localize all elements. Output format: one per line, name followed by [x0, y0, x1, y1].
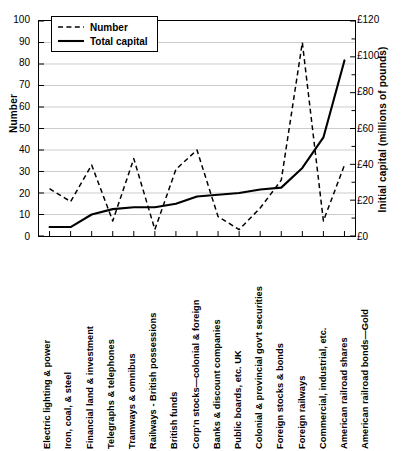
x-axis-label-6: British funds	[170, 392, 179, 449]
y-axis-left-tick-100: 100	[4, 15, 30, 25]
x-axis-label-8: Banks & discount companies	[213, 319, 222, 449]
y-axis-right-tick-20: £20	[357, 196, 391, 206]
y-axis-right-ticks	[350, 21, 355, 236]
y-axis-left-tick-90: 90	[4, 37, 30, 47]
legend-label-number: Number	[90, 22, 128, 33]
y-axis-left-tick-60: 60	[4, 102, 30, 112]
series-number-line	[50, 43, 345, 230]
y-axis-left-tick-50: 50	[4, 124, 30, 134]
y-axis-left-tick-labels: 0102030405060708090100	[0, 0, 30, 250]
y-axis-left-tick-0: 0	[4, 232, 30, 242]
x-axis-label-4: Tramways & omnibus	[128, 353, 137, 449]
y-axis-left-tick-30: 30	[4, 167, 30, 177]
x-axis-label-14: American railroad shares	[340, 337, 349, 449]
x-axis-label-13: Commercial, industrial, etc.	[319, 328, 328, 449]
y-axis-right-tick-labels: £0£20£40£60£80£100£120	[357, 0, 401, 250]
y-axis-left-tick-10: 10	[4, 210, 30, 220]
x-axis-label-7: Corp'n stocks—colonial & foreign	[192, 300, 201, 449]
plot-area	[38, 20, 356, 237]
y-axis-right-tick-80: £80	[357, 87, 391, 97]
x-axis-label-9: Public boards, etc. UK	[234, 350, 243, 449]
x-axis-label-11: Foreign stocks & bonds	[276, 343, 285, 449]
x-axis-label-12: Foreign railways	[298, 376, 307, 449]
x-axis-label-1: Iron, coal, & steel	[64, 372, 73, 449]
y-axis-left-tick-40: 40	[4, 145, 30, 155]
legend-swatch-solid	[58, 36, 84, 46]
plot-svg	[39, 21, 355, 236]
legend-label-total-capital: Total capital	[90, 36, 148, 47]
y-axis-left-ticks	[39, 21, 44, 236]
x-axis-ticks	[50, 231, 345, 236]
chart-container: Number Initial capital (millions of poun…	[0, 0, 401, 451]
y-axis-right-tick-40: £40	[357, 160, 391, 170]
y-axis-left-tick-20: 20	[4, 189, 30, 199]
x-axis-label-10: Colonial & provincial gov't securities	[255, 286, 264, 449]
legend-item-total-capital: Total capital	[58, 34, 148, 48]
x-axis-category-labels: Electric lighting & powerIron, coal, & s…	[38, 243, 356, 449]
legend-swatch-dashed	[58, 22, 84, 32]
gridlines	[39, 43, 355, 215]
x-axis-label-0: Electric lighting & power	[43, 340, 52, 449]
y-axis-right-tick-120: £120	[357, 15, 391, 25]
chart-legend: Number Total capital	[51, 16, 158, 52]
legend-item-number: Number	[58, 20, 148, 34]
x-axis-label-2: Financial land & investment	[86, 326, 95, 449]
y-axis-left-tick-80: 80	[4, 58, 30, 68]
y-axis-right-tick-0: £0	[357, 232, 391, 242]
y-axis-left-tick-70: 70	[4, 80, 30, 90]
x-axis-label-5: Railways - British possessions	[149, 313, 158, 449]
y-axis-right-tick-60: £60	[357, 124, 391, 134]
x-axis-label-15: American railroad bonds—Gold	[361, 309, 370, 449]
x-axis-label-3: Telegraphs & telephones	[107, 339, 116, 449]
y-axis-right-tick-100: £100	[357, 51, 391, 61]
